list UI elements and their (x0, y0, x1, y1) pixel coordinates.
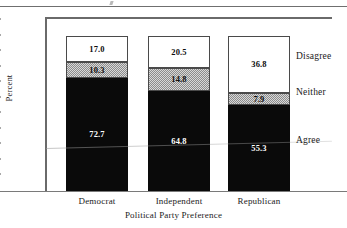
bar-value-label: 7.9 (254, 95, 265, 104)
x-tick-independent: Independent (156, 196, 203, 206)
stacked-bar-chart-figure: 100 90 80 70 60 50 40 30 20 10 0 Percent… (0, 0, 347, 228)
bar-value-label: 64.8 (171, 137, 186, 146)
bar-value-label: 72.7 (89, 130, 104, 139)
x-axis-title: Political Party Preference (0, 210, 347, 220)
x-axis-line (0, 191, 347, 192)
bar-value-label: 14.8 (171, 75, 186, 84)
bar-value-label: 55.3 (251, 144, 266, 153)
bar-value-label: 10.3 (89, 66, 104, 75)
bar-segment-disagree[interactable]: 20.5 (148, 36, 210, 68)
bar-segment-disagree[interactable]: 36.8 (228, 36, 290, 93)
bar-segment-agree[interactable]: 64.8 (148, 91, 210, 191)
bar-independent[interactable]: 64.8 14.8 20.5 (148, 36, 210, 191)
bar-segment-disagree[interactable]: 17.0 (66, 36, 128, 62)
x-tick-democrat: Democrat (78, 196, 115, 206)
bar-segment-neither[interactable]: 10.3 (66, 62, 128, 78)
bar-value-label: 20.5 (171, 48, 186, 57)
legend-label-agree: Agree (296, 135, 320, 145)
bar-segment-agree[interactable]: 72.7 (66, 78, 128, 191)
bar-value-label: 36.8 (251, 60, 266, 69)
bars-group: 72.7 10.3 17.0 64.8 14.8 20.5 55.3 (0, 0, 347, 228)
bar-republican[interactable]: 55.3 7.9 36.8 (228, 36, 290, 191)
bar-value-label: 17.0 (89, 45, 104, 54)
bar-segment-neither[interactable]: 7.9 (228, 93, 290, 105)
bar-segment-neither[interactable]: 14.8 (148, 68, 210, 91)
legend-label-disagree: Disagree (296, 51, 331, 61)
x-tick-republican: Republican (238, 196, 281, 206)
bar-segment-agree[interactable]: 55.3 (228, 105, 290, 191)
bar-democrat[interactable]: 72.7 10.3 17.0 (66, 36, 128, 191)
legend-label-neither: Neither (296, 87, 326, 97)
